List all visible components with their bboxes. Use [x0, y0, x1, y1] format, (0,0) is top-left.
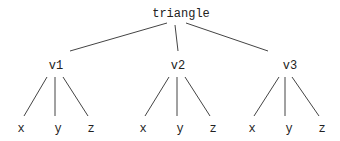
leaf-node-v2x: x: [139, 123, 146, 135]
edge-v1-v1x: [24, 77, 47, 116]
edge-v2-v2z: [185, 77, 210, 116]
leaf-node-v2y: y: [176, 123, 183, 135]
leaf-node-v3y: y: [285, 123, 292, 135]
leaf-node-v1z: z: [87, 123, 94, 135]
edge-root-v1: [70, 23, 167, 51]
leaf-node-v2z: z: [209, 123, 216, 135]
leaf-node-v3x: x: [248, 123, 255, 135]
edge-v2-v2x: [145, 77, 169, 116]
internal-node-v2: v2: [171, 60, 185, 72]
internal-node-v3: v3: [283, 60, 297, 72]
leaf-node-v1y: y: [54, 123, 61, 135]
edge-root-v3: [186, 23, 268, 51]
leaf-node-v3z: z: [318, 123, 325, 135]
tree-diagram: trianglev1v2v3xyzxyzxyz: [0, 0, 340, 141]
edge-v1-v1z: [63, 77, 88, 116]
internal-node-v1: v1: [49, 60, 63, 72]
edge-v3-v3x: [254, 77, 279, 116]
edge-v3-v3z: [292, 77, 319, 116]
edge-root-v2: [175, 25, 178, 51]
root-node-root: triangle: [152, 8, 210, 20]
leaf-node-v1x: x: [17, 123, 24, 135]
